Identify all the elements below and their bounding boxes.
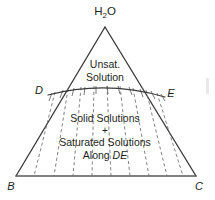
tie-line — [120, 86, 130, 176]
hatch-tick — [118, 86, 120, 94]
solid-plus-saturated-field-label: Solid Solutions + Saturated Solutions Al… — [59, 112, 151, 161]
unsat-line-2: Solution — [86, 71, 124, 83]
unsat-line-1: Unsat. — [90, 58, 120, 70]
tie-line — [54, 89, 68, 176]
tie-line — [157, 93, 183, 176]
lower-line-4: Along DE — [83, 149, 128, 161]
vertex-label-b: B — [7, 180, 14, 192]
vertex-label-c: C — [195, 180, 203, 192]
ternary-phase-diagram: H2O B C D E Unsat. Solution Solid Soluti… — [0, 0, 215, 200]
phase-diagram-canvas: H2O B C D E Unsat. Solution Solid Soluti… — [0, 0, 215, 200]
tie-line — [133, 88, 149, 176]
lower-line-4-prefix: Along — [83, 149, 113, 161]
curve-endpoint-label-d: D — [35, 84, 43, 96]
hatch-tick — [140, 89, 143, 97]
scan-artifact — [206, 78, 209, 94]
apex-label-main: H — [94, 5, 102, 17]
curve-endpoint-label-e: E — [167, 87, 175, 99]
lower-line-2-plus: + — [102, 125, 108, 136]
hatch-tick — [151, 91, 155, 99]
hatch-tick — [161, 94, 165, 101]
lower-line-4-italic-de: DE — [113, 149, 129, 161]
apex-label-h2o: H2O — [94, 5, 116, 20]
lower-line-1: Solid Solutions — [70, 112, 139, 124]
unsaturated-solution-field-label: Unsat. Solution — [86, 58, 124, 83]
lower-line-3: Saturated Solutions — [59, 136, 151, 148]
hatch-tick — [129, 87, 132, 95]
tie-line — [73, 87, 81, 176]
apex-label-tail: O — [107, 5, 116, 17]
tie-line — [146, 90, 167, 176]
tie-line — [92, 86, 94, 176]
hatch-tick — [72, 88, 74, 96]
tie-line-group — [34, 86, 183, 176]
tie-line — [34, 92, 55, 176]
